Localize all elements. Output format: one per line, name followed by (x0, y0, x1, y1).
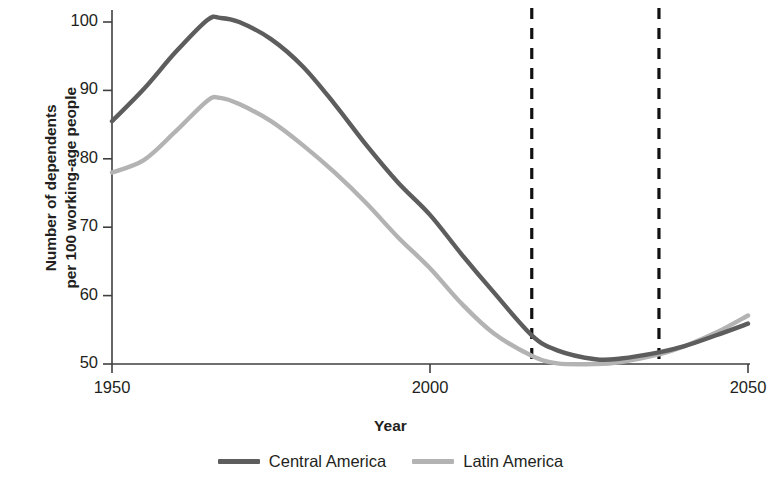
series-line-central-america (112, 17, 748, 360)
x-tick-label: 1950 (72, 378, 152, 397)
legend-label-central-america: Central America (269, 452, 386, 471)
legend-item-latin-america: Latin America (412, 452, 563, 471)
legend-label-latin-america: Latin America (463, 452, 563, 471)
chart-legend: Central America Latin America (0, 452, 781, 471)
x-tick-label: 2050 (708, 378, 781, 397)
y-tick-label: 50 (54, 353, 98, 372)
legend-item-central-america: Central America (218, 452, 386, 471)
legend-swatch-latin-america (412, 459, 454, 464)
y-tick-label: 80 (54, 148, 98, 167)
series-line-latin-america (112, 97, 748, 364)
axes (112, 10, 750, 364)
annotation-dashed-lines (532, 8, 659, 364)
x-tick-label: 2000 (390, 378, 470, 397)
y-tick-label: 100 (54, 11, 98, 30)
legend-swatch-central-america (218, 459, 260, 464)
y-axis-ticks (103, 22, 112, 364)
dependency-ratio-line-chart: Number of dependents per 100 working-age… (0, 0, 781, 485)
data-series-lines (112, 17, 748, 365)
y-tick-label: 70 (54, 216, 98, 235)
x-axis-title: Year (0, 417, 781, 435)
x-axis-ticks (112, 364, 748, 373)
y-tick-label: 60 (54, 285, 98, 304)
y-tick-label: 90 (54, 79, 98, 98)
plot-area (0, 0, 781, 485)
